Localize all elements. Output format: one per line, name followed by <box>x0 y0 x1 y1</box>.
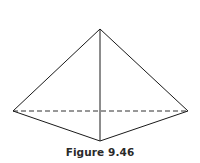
figure-page: Figure 9.46 <box>0 0 200 163</box>
edge-apex-right <box>100 29 188 111</box>
edge-right-front <box>100 111 188 141</box>
tetrahedron-diagram <box>0 0 200 163</box>
figure-caption: Figure 9.46 <box>0 146 200 158</box>
edge-apex-left <box>13 29 100 111</box>
edge-left-front <box>13 111 100 141</box>
